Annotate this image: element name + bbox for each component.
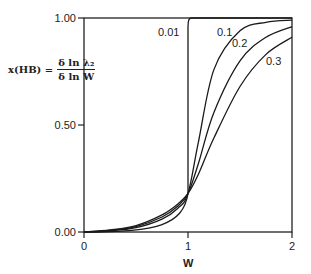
x-ticks: [84, 232, 292, 238]
curve-label-0.2: 0.2: [232, 37, 247, 49]
chart-plot: 1.00 0.50 0.00 0 1 2 0.01 0.1 0.2 0.3: [0, 0, 311, 274]
y-ticks: [78, 18, 84, 232]
x-tick-label: 1: [185, 240, 191, 252]
y-axis-label-lhs: x(HB) =: [8, 64, 53, 75]
curve-label-0.3: 0.3: [266, 55, 281, 67]
curves: [84, 18, 292, 232]
y-tick-label: 1.00: [55, 12, 76, 24]
x-tick-label: 0: [81, 240, 87, 252]
x-tick-label: 2: [289, 240, 295, 252]
curve-0.01: [84, 18, 292, 232]
y-axis-label: x(HB) = δ ln λ₂ δ ln W: [8, 57, 95, 82]
curve-label-0.01: 0.01: [158, 26, 179, 38]
curve-label-0.1: 0.1: [217, 26, 232, 38]
y-axis-label-fraction: δ ln λ₂ δ ln W: [57, 57, 95, 82]
y-axis-label-numerator: δ ln λ₂: [57, 57, 95, 70]
y-tick-label: 0.50: [55, 119, 76, 131]
y-axis-label-denominator: δ ln W: [58, 70, 94, 82]
x-axis-label: W: [183, 257, 193, 269]
y-tick-label: 0.00: [55, 226, 76, 238]
